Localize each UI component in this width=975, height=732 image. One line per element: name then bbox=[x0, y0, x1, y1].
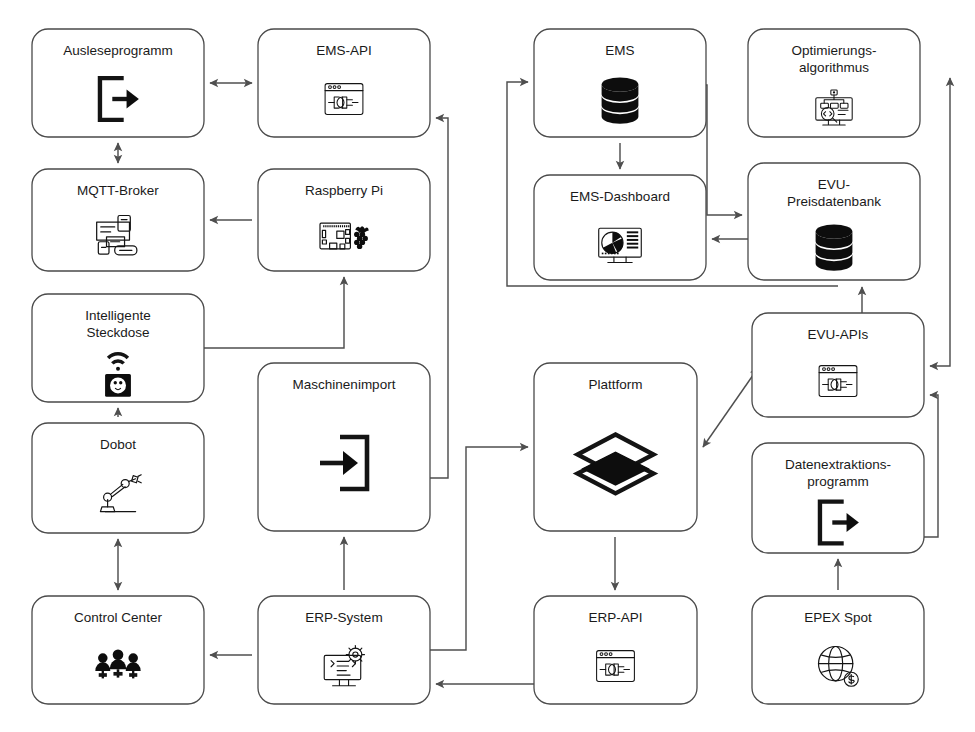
node-ems-api[interactable]: EMS-API bbox=[258, 29, 430, 137]
nodes-layer: AusleseprogrammEMS-APIEMSOptimierungs-al… bbox=[32, 29, 924, 704]
node-label: ERP-System bbox=[305, 610, 382, 625]
node-dobot[interactable]: Dobot bbox=[32, 423, 204, 533]
node-evu-preisdb[interactable]: EVU-Preisdatenbank bbox=[748, 163, 920, 280]
node-steckdose[interactable]: IntelligenteSteckdose bbox=[32, 294, 204, 402]
node-epex-spot[interactable]: EPEX Spot bbox=[752, 596, 924, 704]
node-ems-dashboard[interactable]: EMS-Dashboard bbox=[534, 175, 706, 280]
diagram-svg: AusleseprogrammEMS-APIEMSOptimierungs-al… bbox=[0, 0, 975, 732]
node-label: EVU-APIs bbox=[808, 327, 869, 342]
node-label: Plattform bbox=[588, 377, 642, 392]
node-label: Steckdose bbox=[86, 325, 149, 340]
node-label: Dobot bbox=[100, 437, 136, 452]
node-erp-api[interactable]: ERP-API bbox=[534, 596, 697, 704]
node-label: Maschinenimport bbox=[293, 377, 396, 392]
node-ausleseprogramm[interactable]: Ausleseprogramm bbox=[32, 29, 204, 137]
node-label: algorithmus bbox=[799, 60, 869, 75]
node-maschinenimport[interactable]: Maschinenimport bbox=[258, 363, 430, 531]
node-label: MQTT-Broker bbox=[77, 183, 159, 198]
node-plattform[interactable]: Plattform bbox=[534, 363, 697, 531]
node-label: EMS bbox=[605, 43, 634, 58]
node-label: Control Center bbox=[74, 610, 162, 625]
edge-optimierung-to-evu-apis bbox=[930, 78, 950, 366]
people-group-icon bbox=[95, 649, 140, 678]
node-mqtt-broker[interactable]: MQTT-Broker bbox=[32, 169, 204, 271]
node-datenextraktion[interactable]: Datenextraktions-programm bbox=[752, 443, 924, 553]
node-label: EMS-API bbox=[316, 43, 372, 58]
node-label: EMS-Dashboard bbox=[570, 189, 670, 204]
node-optimierung[interactable]: Optimierungs-algorithmus bbox=[748, 29, 920, 137]
edge-ems-to-evu-preisdb bbox=[706, 85, 742, 215]
node-raspberry-pi[interactable]: Raspberry Pi bbox=[258, 169, 430, 271]
node-label: Datenextraktions- bbox=[785, 457, 891, 472]
node-erp-system[interactable]: ERP-System bbox=[258, 596, 430, 704]
node-label: EVU- bbox=[818, 177, 850, 192]
node-label: Ausleseprogramm bbox=[63, 43, 173, 58]
node-evu-apis[interactable]: EVU-APIs bbox=[752, 313, 924, 417]
node-label: programm bbox=[807, 474, 869, 489]
diagram-canvas: AusleseprogrammEMS-APIEMSOptimierungs-al… bbox=[0, 0, 975, 732]
node-control-center[interactable]: Control Center bbox=[32, 596, 204, 704]
node-label: ERP-API bbox=[588, 610, 642, 625]
node-label: Preisdatenbank bbox=[787, 194, 881, 209]
node-label: Raspberry Pi bbox=[305, 183, 383, 198]
edge-maschinenimport-to-ems-api bbox=[430, 118, 448, 478]
node-label: Optimierungs- bbox=[792, 43, 877, 58]
edge-datenextraktion-to-evu-apis bbox=[924, 395, 938, 537]
edge-steckdose-to-raspberry-pi bbox=[204, 277, 344, 348]
node-ems[interactable]: EMS bbox=[534, 29, 706, 137]
node-label: Intelligente bbox=[85, 308, 150, 323]
edge-plattform-to-evu-apis bbox=[703, 368, 758, 447]
node-label: EPEX Spot bbox=[804, 610, 872, 625]
